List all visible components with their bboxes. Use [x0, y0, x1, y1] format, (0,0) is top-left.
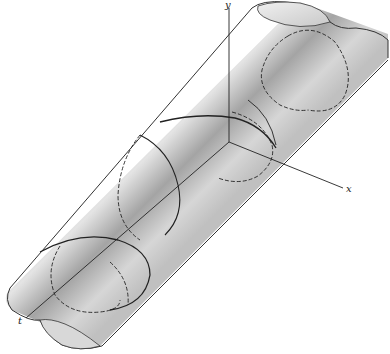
helix-cylinder-diagram: y x t [0, 0, 390, 354]
x-axis-label: x [346, 183, 352, 194]
top-end-face [258, 2, 331, 27]
diagram-svg: y x t [0, 0, 390, 354]
t-axis-label: t [18, 315, 23, 326]
cylinder-body [6, 2, 388, 346]
y-axis-label: y [224, 0, 231, 10]
